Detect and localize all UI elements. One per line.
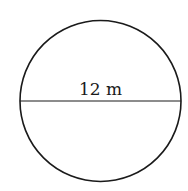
circle-diagram: 12 m (0, 0, 188, 191)
diameter-label: 12 m (0, 79, 188, 99)
